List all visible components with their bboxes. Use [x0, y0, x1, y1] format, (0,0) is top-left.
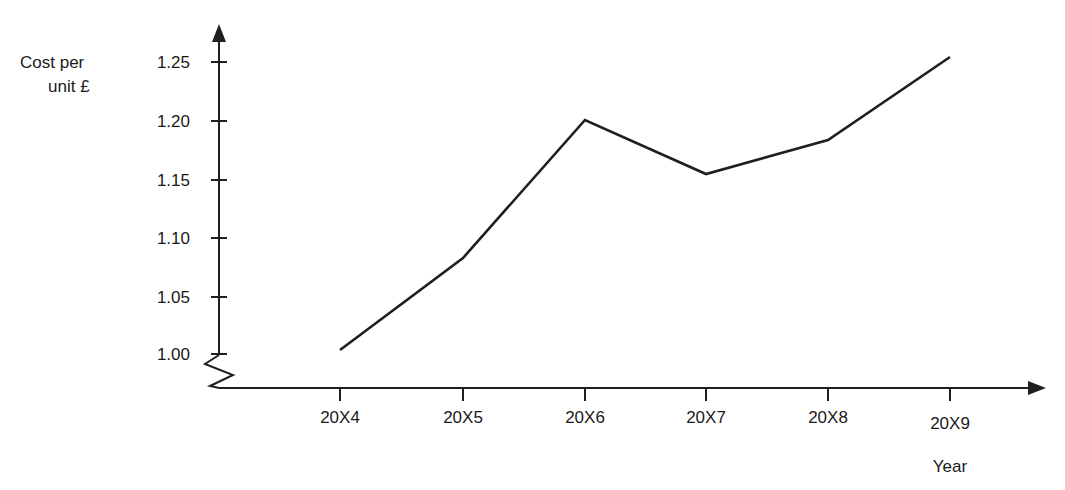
x-tick-label-4: 20X8	[808, 408, 848, 427]
series-line-cost-per-unit	[340, 57, 950, 350]
y-axis-arrow-icon	[212, 24, 226, 42]
y-tick-label-1: 1.20	[157, 112, 190, 131]
y-tick-label-2: 1.15	[157, 171, 190, 190]
y-axis-title-line1: Cost per	[20, 53, 85, 72]
x-tick-label-2: 20X6	[565, 408, 605, 427]
y-tick-label-5: 1.00	[157, 345, 190, 364]
line-chart: 1.25 1.20 1.15 1.10 1.05 1.00 20X4 20X5 …	[0, 0, 1065, 490]
x-axis-title: Year	[933, 457, 968, 476]
y-axis-title-line2: unit £	[48, 77, 90, 96]
x-tick-label-1: 20X5	[443, 408, 483, 427]
chart-page: 1.25 1.20 1.15 1.10 1.05 1.00 20X4 20X5 …	[0, 0, 1065, 490]
y-tick-label-4: 1.05	[157, 288, 190, 307]
y-axis-break-icon	[205, 355, 233, 388]
y-tick-label-0: 1.25	[157, 53, 190, 72]
y-tick-label-3: 1.10	[157, 229, 190, 248]
x-tick-label-3: 20X7	[686, 408, 726, 427]
x-axis-arrow-icon	[1028, 381, 1046, 395]
x-tick-label-0: 20X4	[320, 408, 360, 427]
x-tick-label-5: 20X9	[930, 414, 970, 433]
